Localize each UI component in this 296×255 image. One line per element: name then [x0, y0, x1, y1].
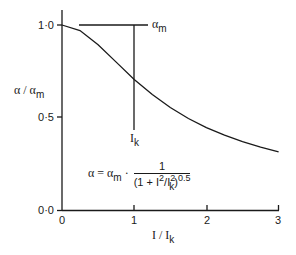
- formula: α = αm · 1 (1 + I2/I2k)0.5: [88, 160, 190, 188]
- alpha-m-annotation: αm: [152, 18, 167, 31]
- x-tick-label-2: 2: [197, 215, 217, 226]
- y-axis-label: α / αm: [14, 84, 44, 97]
- y-tick-label-0: 0·0: [14, 205, 54, 216]
- x-tick-label-0: 0: [52, 215, 72, 226]
- chart-canvas: [0, 0, 296, 255]
- curve-line: [62, 25, 279, 152]
- formula-fraction: 1 (1 + I2/I2k)0.5: [134, 160, 191, 188]
- x-tick-label-3: 3: [268, 215, 288, 226]
- y-tick-label-05: 0·5: [14, 112, 54, 123]
- x-axis-label: I / Ik: [152, 229, 174, 242]
- ik-annotation: Ik: [130, 132, 139, 145]
- x-tick-label-1: 1: [124, 215, 144, 226]
- y-tick-label-1: 1·0: [14, 20, 54, 31]
